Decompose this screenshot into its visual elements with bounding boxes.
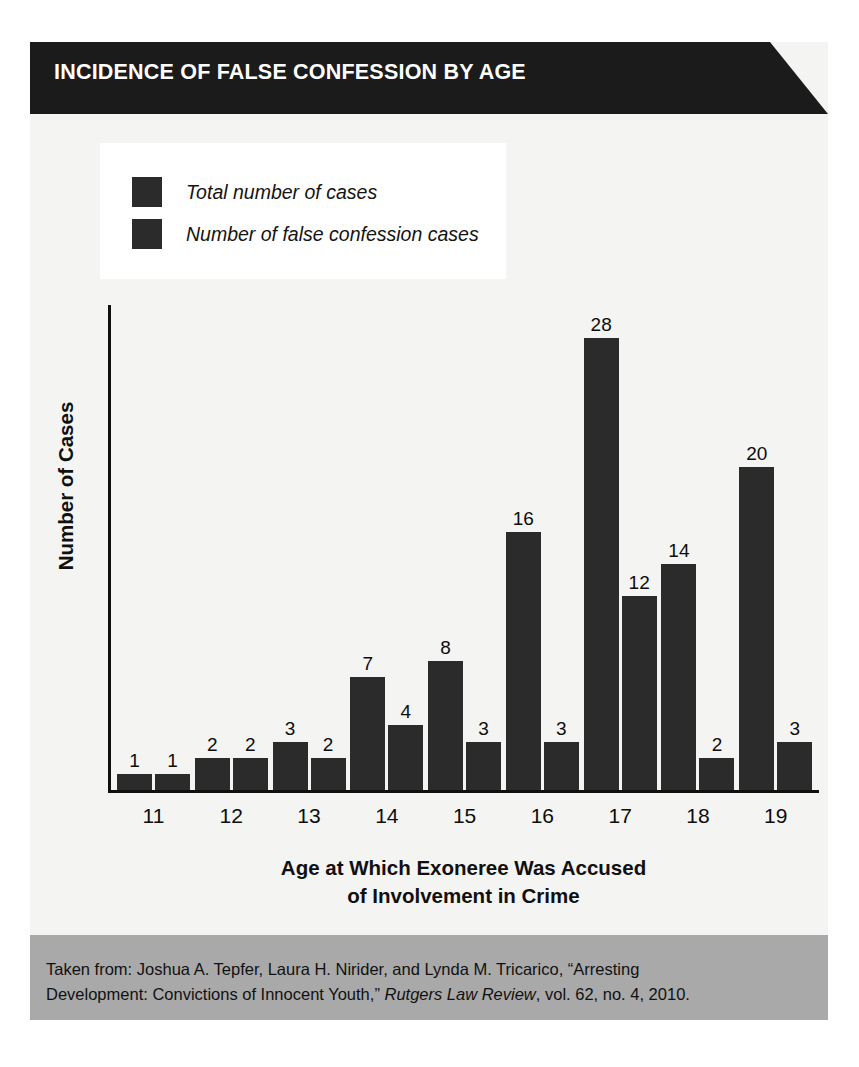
bars-container: 11223274831632812142203 xyxy=(111,305,819,790)
bar-16-total: 16 xyxy=(506,532,541,790)
bar-value-label: 3 xyxy=(285,719,296,738)
x-tick-label-14: 14 xyxy=(375,804,398,828)
x-axis-line xyxy=(108,790,819,793)
citation-line-2-suffix: , vol. 62, no. 4, 2010. xyxy=(536,985,690,1003)
legend-item-false-confession: Number of false confession cases xyxy=(132,213,506,255)
x-tick-label-12: 12 xyxy=(220,804,243,828)
bar-14-false-confession: 4 xyxy=(388,725,423,790)
bar-15-false-confession: 3 xyxy=(466,742,501,790)
x-axis-title-line2: of Involvement in Crime xyxy=(108,882,819,910)
x-tick-label-18: 18 xyxy=(686,804,709,828)
source-citation-text: Taken from: Joshua A. Tepfer, Laura H. N… xyxy=(46,957,798,1007)
x-tick-label-16: 16 xyxy=(531,804,554,828)
source-citation-band: Taken from: Joshua A. Tepfer, Laura H. N… xyxy=(30,935,828,1020)
bar-value-label: 8 xyxy=(440,638,451,657)
bar-value-label: 2 xyxy=(245,735,256,754)
bar-value-label: 28 xyxy=(591,315,612,334)
x-tick-label-19: 19 xyxy=(764,804,787,828)
legend-item-label: Total number of cases xyxy=(186,181,377,204)
legend-item-label: Number of false confession cases xyxy=(186,223,479,246)
x-axis-title-line1: Age at Which Exoneree Was Accused xyxy=(108,854,819,882)
bar-value-label: 16 xyxy=(513,509,534,528)
bar-11-false-confession: 1 xyxy=(155,774,190,790)
bar-value-label: 3 xyxy=(478,719,489,738)
bar-18-false-confession: 2 xyxy=(699,758,734,790)
bar-value-label: 14 xyxy=(668,541,689,560)
bar-value-label: 20 xyxy=(746,444,767,463)
bar-value-label: 2 xyxy=(712,735,723,754)
y-axis-title: Number of Cases xyxy=(54,376,78,596)
x-tick-label-13: 13 xyxy=(297,804,320,828)
bar-17-total: 28 xyxy=(584,338,619,790)
bar-11-total: 1 xyxy=(117,774,152,790)
citation-journal-name: Rutgers Law Review xyxy=(384,985,535,1003)
bar-19-false-confession: 3 xyxy=(777,742,812,790)
legend-swatch-icon xyxy=(132,219,162,249)
bar-14-total: 7 xyxy=(350,677,385,790)
bar-value-label: 12 xyxy=(629,573,650,592)
legend: Total number of cases Number of false co… xyxy=(100,143,506,279)
bar-value-label: 7 xyxy=(363,654,374,673)
legend-item-total: Total number of cases xyxy=(132,171,506,213)
bar-19-total: 20 xyxy=(739,467,774,790)
bar-12-total: 2 xyxy=(195,758,230,790)
x-tick-label-11: 11 xyxy=(143,804,165,828)
bar-value-label: 4 xyxy=(401,702,412,721)
bar-16-false-confession: 3 xyxy=(544,742,579,790)
legend-swatch-icon xyxy=(132,177,162,207)
bar-value-label: 3 xyxy=(556,719,567,738)
x-tick-label-15: 15 xyxy=(453,804,476,828)
bar-12-false-confession: 2 xyxy=(233,758,268,790)
citation-line-1: Taken from: Joshua A. Tepfer, Laura H. N… xyxy=(46,960,639,978)
bar-15-total: 8 xyxy=(428,661,463,790)
citation-line-2-prefix: Development: Convictions of Innocent You… xyxy=(46,985,384,1003)
bar-value-label: 2 xyxy=(323,735,334,754)
bar-18-total: 14 xyxy=(661,564,696,790)
bar-13-total: 3 xyxy=(273,742,308,790)
bar-value-label: 2 xyxy=(207,735,218,754)
x-axis-title: Age at Which Exoneree Was Accused of Inv… xyxy=(108,854,819,909)
bar-value-label: 1 xyxy=(167,751,178,770)
bar-value-label: 3 xyxy=(789,719,800,738)
x-tick-label-17: 17 xyxy=(608,804,631,828)
bar-value-label: 1 xyxy=(129,751,140,770)
bar-17-false-confession: 12 xyxy=(622,596,657,790)
chart-figure: INCIDENCE OF FALSE CONFESSION BY AGE Num… xyxy=(30,42,828,1020)
bar-13-false-confession: 2 xyxy=(311,758,346,790)
